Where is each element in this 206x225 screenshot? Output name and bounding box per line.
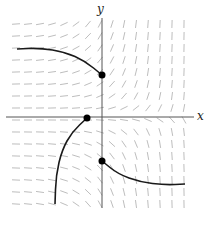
slope-segment [172,140,173,148]
slope-segment [12,24,20,25]
slope-segment [60,179,68,181]
slope-segment [135,68,137,76]
slope-segment [85,33,91,39]
slope-segment [147,140,149,148]
slope-segment [148,32,149,40]
slope-segment [85,70,92,74]
slope-segment [60,59,68,61]
slope-segment [85,166,92,170]
slope-segment [111,20,113,28]
slope-segment [109,94,116,99]
slope-segment [85,177,91,182]
slope-segment [172,152,173,160]
slope-segment [48,23,56,25]
slope-segment [96,120,104,121]
slope-segment [123,44,125,52]
slope-segment [98,20,102,27]
slope-segment [72,83,80,85]
slope-segment [24,36,32,37]
slope-segment [48,179,56,181]
slope-segment [184,92,185,100]
slope-segment [84,95,92,97]
slope-segment [84,131,92,133]
slope-segment [72,155,80,157]
slope-segment [147,164,148,172]
slope-segment [135,32,136,40]
slope-segment [48,96,56,97]
slope-segment [24,204,32,205]
slope-segment [123,176,125,184]
slope-segment [160,68,161,76]
slope-segment [134,129,139,135]
slope-segment [135,56,137,64]
slope-segment [120,119,128,120]
slope-segment [60,96,68,97]
slope-segment [48,71,56,72]
slope-segment [72,143,80,145]
slope-segment [120,106,127,110]
slope-segment [24,180,32,181]
slope-segment [12,204,20,205]
slope-segment [48,35,56,37]
slope-segment [160,176,161,184]
lower-left-curve [55,118,87,204]
slope-segment [111,188,114,195]
slope-segment [135,152,137,160]
slope-segment [148,56,149,64]
slope-segment [159,140,160,148]
slope-segment [36,72,44,73]
slope-segment [96,94,103,97]
slope-segment [135,80,138,88]
slope-segment [72,167,79,170]
slope-segment [36,191,44,192]
slope-segment [123,20,125,28]
slope-segment [108,107,116,109]
slope-segment [147,68,148,76]
slope-segment [48,167,56,168]
slope-segment [171,104,173,112]
slope-segment [171,92,172,100]
slope-segment [133,106,139,111]
slope-segment [160,56,161,64]
slope-segment [48,156,56,157]
slope-field-plot [0,0,206,225]
slope-segment [134,140,137,147]
slope-segment [148,200,149,208]
slope-segment [84,143,92,146]
slope-segment [122,81,126,88]
slope-segment [184,140,185,148]
slope-segment [171,128,172,136]
slope-segment [48,84,56,85]
slope-segment [85,45,91,50]
slope-segment [158,104,162,111]
slope-segment [60,47,68,50]
slope-segment [98,33,102,40]
slope-segment [123,188,125,196]
slope-segment [72,95,80,96]
slope-segment [72,46,79,50]
slope-segment [108,130,115,134]
slope-segment [183,104,184,112]
slope-segment [98,201,102,208]
slope-segment [60,143,68,144]
slope-segment [85,21,90,27]
slope-segment [48,47,56,49]
slope-segment [135,200,136,208]
slope-segment [135,188,136,196]
slope-segment [122,141,127,148]
slope-segment [48,59,56,60]
slope-segment [96,107,104,108]
slope-segment [110,44,113,51]
slope-segment [60,167,68,169]
slope-segment [146,105,151,111]
initial-point [99,158,106,165]
slope-segment [72,108,80,109]
y-axis-label: y [97,2,104,16]
slope-segment [73,202,80,207]
slope-segment [172,80,173,88]
slope-segment [147,152,148,160]
slope-segment [85,189,91,195]
slope-segment [110,153,115,159]
slope-segment [96,131,104,133]
slope-segment [122,152,125,159]
